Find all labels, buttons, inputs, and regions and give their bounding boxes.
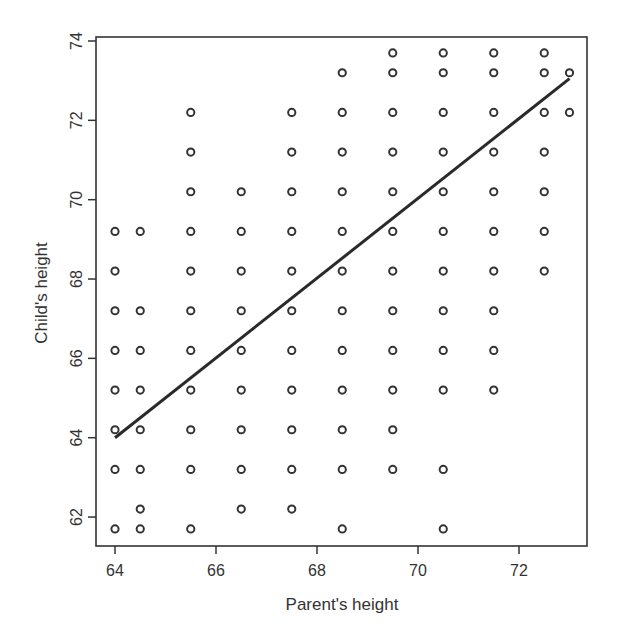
data-point [490,267,497,274]
data-point [440,49,447,56]
data-point [339,188,346,195]
data-point [440,228,447,235]
data-point [440,267,447,274]
y-tick-label: 72 [68,111,85,129]
data-point [389,69,396,76]
data-point [111,525,118,532]
data-point [238,228,245,235]
regression-line [115,79,570,438]
data-point [389,386,396,393]
data-point [339,69,346,76]
data-point [137,347,144,354]
data-point [389,49,396,56]
data-point [187,525,194,532]
data-point [541,267,548,274]
data-point [389,267,396,274]
data-point [187,386,194,393]
data-point [389,307,396,314]
data-point [389,466,396,473]
data-point [238,466,245,473]
data-point [137,525,144,532]
data-point [541,148,548,155]
data-point [440,466,447,473]
data-point [339,466,346,473]
data-point [490,69,497,76]
y-axis-title: Child's height [32,242,51,344]
data-point [111,347,118,354]
data-point [137,307,144,314]
data-point [111,228,118,235]
data-point [111,267,118,274]
data-point [238,426,245,433]
y-tick-label: 66 [68,349,85,367]
data-point [288,386,295,393]
data-point [187,109,194,116]
data-point [541,109,548,116]
data-point [389,228,396,235]
data-point [288,506,295,513]
y-tick-label: 74 [68,32,85,50]
y-tick-label: 64 [68,429,85,447]
data-point [339,228,346,235]
data-point [490,386,497,393]
data-point [490,347,497,354]
data-point [288,228,295,235]
data-point [288,426,295,433]
data-point [288,148,295,155]
data-point [440,386,447,393]
x-tick-label: 68 [308,562,326,579]
data-point [339,267,346,274]
y-tick-label: 62 [68,508,85,526]
data-points [111,49,573,532]
data-point [541,49,548,56]
x-tick-label: 70 [409,562,427,579]
data-point [288,307,295,314]
data-point [288,109,295,116]
data-point [339,148,346,155]
data-point [490,109,497,116]
data-point [238,188,245,195]
y-tick-label: 70 [68,191,85,209]
data-point [137,466,144,473]
data-point [238,347,245,354]
data-point [490,188,497,195]
data-point [490,228,497,235]
data-point [187,228,194,235]
data-point [238,267,245,274]
data-point [490,49,497,56]
data-point [111,426,118,433]
data-point [339,109,346,116]
data-point [288,347,295,354]
data-point [288,188,295,195]
data-point [288,466,295,473]
y-tick-label: 68 [68,270,85,288]
data-point [541,228,548,235]
y-axis: 62646668707274 [68,32,96,526]
data-point [440,525,447,532]
data-point [187,466,194,473]
data-point [187,426,194,433]
data-point [389,426,396,433]
data-point [440,347,447,354]
data-point [440,307,447,314]
data-point [111,307,118,314]
data-point [541,188,548,195]
data-point [137,386,144,393]
data-point [238,307,245,314]
data-point [566,69,573,76]
data-point [440,69,447,76]
data-point [440,148,447,155]
data-point [111,466,118,473]
data-point [137,228,144,235]
data-point [389,148,396,155]
data-point [440,109,447,116]
x-tick-label: 64 [106,562,124,579]
data-point [187,267,194,274]
x-axis-title: Parent's height [286,595,399,614]
data-point [339,426,346,433]
data-point [187,307,194,314]
data-point [339,347,346,354]
data-point [238,386,245,393]
data-point [389,347,396,354]
data-point [566,109,573,116]
